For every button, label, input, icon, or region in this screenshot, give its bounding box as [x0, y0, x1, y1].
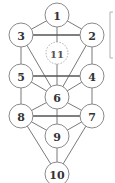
node-3-label: 3: [17, 30, 25, 43]
node-4-label: 4: [88, 71, 96, 84]
node-5: 5: [9, 64, 33, 88]
tree-diagram: 11 1 2 3 4 5 6 7 8 9 10: [0, 0, 115, 183]
node-8: 8: [9, 104, 33, 128]
node-5-label: 5: [17, 71, 25, 84]
node-9-label: 9: [53, 131, 61, 144]
node-6: 6: [45, 85, 69, 109]
node-4: 4: [80, 64, 104, 88]
node-10-label: 10: [49, 169, 65, 182]
node-1-label: 1: [53, 10, 61, 23]
node-10: 10: [45, 162, 69, 183]
node-7-label: 7: [88, 111, 96, 124]
bracket-marker: [110, 12, 113, 58]
node-2-label: 2: [88, 30, 96, 43]
node-6-label: 6: [53, 92, 61, 105]
node-9: 9: [45, 124, 69, 148]
node-3: 3: [9, 23, 33, 47]
node-2: 2: [80, 23, 104, 47]
node-7: 7: [80, 104, 104, 128]
node-8-label: 8: [17, 111, 25, 124]
node-1: 1: [45, 3, 69, 27]
node-11-label: 11: [50, 49, 64, 60]
node-11: 11: [46, 42, 68, 64]
